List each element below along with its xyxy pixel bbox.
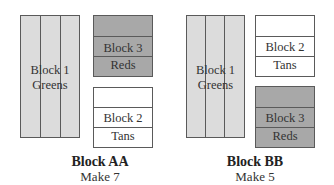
strip-divider [256,36,314,37]
block-bb-block1-greens: Block 1 Greens [186,15,245,138]
strip-divider [94,36,152,37]
diagram-quantity: Make 5 [195,169,315,185]
block-color-label: Greens [21,78,79,93]
strip-divider [256,56,314,57]
block-aa-block2-tans: Block 2 Tans [93,87,153,148]
block-label: Block 1 [21,63,79,78]
strip-divider [256,127,314,128]
block-label: Block 2 [94,111,152,126]
block-label: Block 2 [256,40,314,55]
strip-divider [256,107,314,108]
block-aa-block3-reds: Block 3 Reds [93,15,153,77]
block-label: Block 1 [187,63,244,78]
block-aa-block1-greens: Block 1 Greens [20,15,80,138]
diagram-title: Block BB [195,154,315,170]
strip-divider [94,107,152,108]
block-label: Block 3 [256,111,314,126]
block-color-label: Greens [187,78,244,93]
block-color-label: Reds [94,58,152,73]
strip-divider [94,127,152,128]
block-color-label: Tans [256,58,314,73]
diagram-quantity: Make 7 [40,169,160,185]
block-label: Block 3 [94,41,152,56]
block-color-label: Reds [256,129,314,144]
diagram-title: Block AA [40,154,160,170]
strip-divider [94,56,152,57]
block-bb-block2-tans: Block 2 Tans [255,15,315,77]
block-color-label: Tans [94,129,152,144]
block-bb-block3-reds: Block 3 Reds [255,86,315,148]
